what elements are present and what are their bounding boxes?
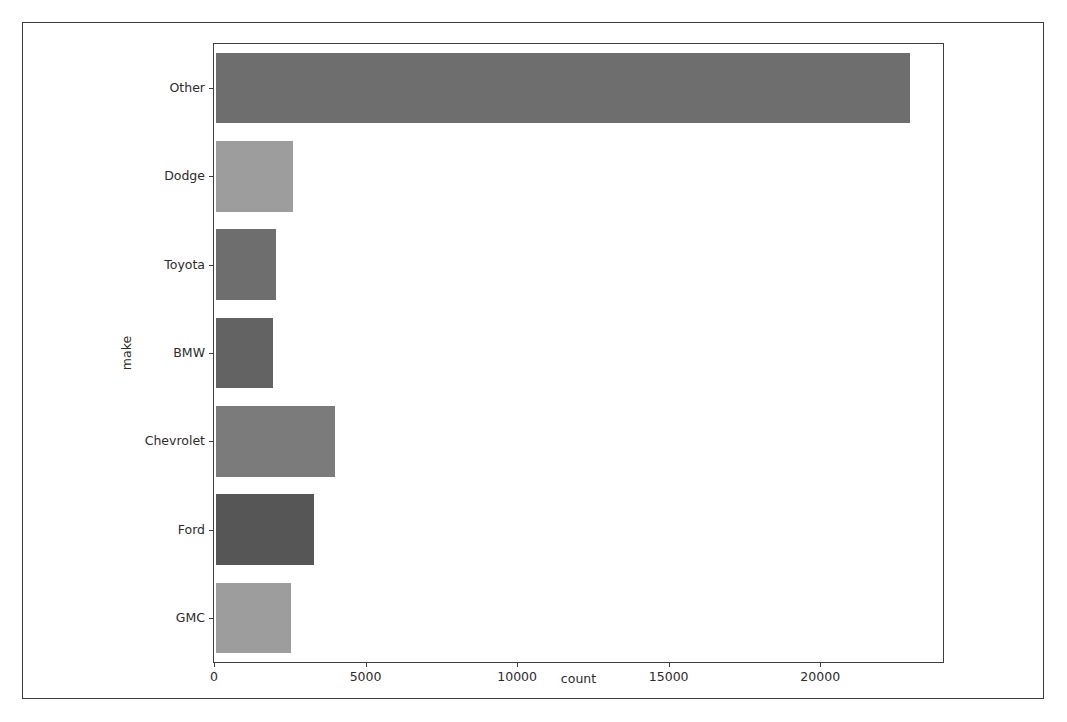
bar-chevrolet [216,406,335,477]
y-tick-label: Toyota [164,258,205,271]
bar-toyota [216,229,276,300]
bar-ford [216,494,314,565]
y-tick-label: GMC [176,612,205,625]
y-tick-label: Other [170,82,206,95]
y-tick-mark [209,530,214,531]
bar-gmc [216,583,291,654]
y-tick-mark [209,265,214,266]
y-tick-mark [209,176,214,177]
chart-plot-area: OtherDodgeToyotaBMWChevroletFordGMC 0500… [213,43,944,663]
figure-canvas: OtherDodgeToyotaBMWChevroletFordGMC 0500… [23,23,1045,700]
x-axis-label: count [213,671,944,686]
y-axis-label: make [119,43,135,663]
y-tick-mark [209,618,214,619]
bar-series [214,44,943,662]
x-tick-mark [366,662,367,667]
y-tick-label: Chevrolet [145,435,205,448]
y-tick-mark [209,88,214,89]
y-tick-mark [209,353,214,354]
x-tick-mark [517,662,518,667]
x-tick-mark [820,662,821,667]
y-tick-label: BMW [173,347,205,360]
x-tick-mark [214,662,215,667]
y-tick-label: Dodge [164,170,205,183]
bar-dodge [216,141,293,212]
x-tick-mark [669,662,670,667]
bar-bmw [216,318,273,389]
y-tick-mark [209,441,214,442]
document-frame: OtherDodgeToyotaBMWChevroletFordGMC 0500… [22,22,1044,699]
y-tick-label: Ford [178,523,205,536]
bar-other [216,53,910,124]
